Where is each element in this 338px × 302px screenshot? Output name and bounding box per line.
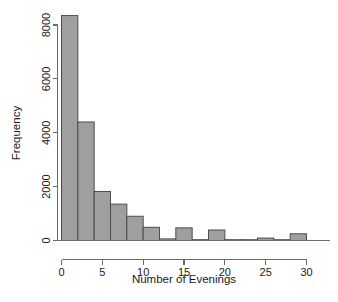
histogram-bar — [290, 234, 306, 241]
histogram-figure: 02000400060008000 051015202530 Number of… — [0, 0, 338, 302]
y-axis-ticks — [53, 25, 58, 241]
y-tick-label: 4000 — [40, 121, 52, 145]
x-axis-ticks — [62, 260, 307, 265]
x-tick-label: 0 — [58, 266, 64, 278]
histogram-bar — [143, 227, 159, 240]
histogram-bar — [62, 16, 78, 241]
x-axis-title: Number of Evenings — [132, 273, 236, 285]
x-tick-label: 30 — [300, 266, 312, 278]
histogram-bar — [94, 191, 110, 240]
y-tick-label: 0 — [40, 237, 52, 243]
y-axis-title: Frequency — [10, 106, 22, 161]
histogram-bar — [127, 216, 143, 240]
histogram-bar — [209, 230, 225, 241]
y-tick-label: 8000 — [40, 13, 52, 37]
y-tick-label: 6000 — [40, 67, 52, 91]
bars-group — [62, 16, 307, 241]
histogram-bar — [111, 204, 127, 240]
histogram-bar — [176, 228, 192, 241]
x-tick-label: 25 — [260, 266, 272, 278]
x-tick-label: 5 — [99, 266, 105, 278]
histogram-bar — [78, 122, 94, 241]
y-axis-tick-labels: 02000400060008000 — [40, 13, 52, 244]
plot-canvas: 02000400060008000 051015202530 Number of… — [0, 0, 338, 302]
y-tick-label: 2000 — [40, 174, 52, 198]
